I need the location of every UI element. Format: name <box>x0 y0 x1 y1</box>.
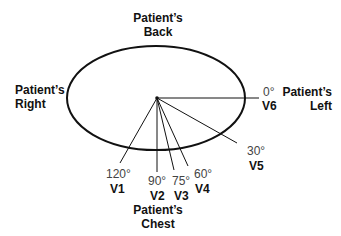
angle-v1: 120° <box>106 167 131 181</box>
angle-v3: 75° <box>172 174 190 188</box>
origin-point <box>155 96 159 100</box>
angle-v4: 60° <box>194 167 212 181</box>
lead-label-v5: V5 <box>249 159 264 173</box>
label-chest-line1: Patient’s <box>133 203 183 217</box>
label-chest-line2: Chest <box>133 217 183 231</box>
label-right-line2: Right <box>15 97 65 111</box>
label-right: Patient’s Right <box>15 83 65 111</box>
lead-ray-v1 <box>120 98 157 163</box>
angle-v5: 30° <box>247 144 265 158</box>
lead-label-v4: V4 <box>195 182 210 196</box>
lead-label-v2: V2 <box>150 189 165 203</box>
lead-ray-v4 <box>157 98 188 166</box>
label-chest: Patient’s Chest <box>133 203 183 231</box>
lead-ray-v3 <box>157 98 174 170</box>
label-back-line2: Back <box>133 25 183 39</box>
angle-v2: 90° <box>148 174 166 188</box>
label-left: Patient’s Left <box>280 85 332 113</box>
lead-label-v6: V6 <box>262 99 277 113</box>
label-left-line1: Patient’s <box>280 85 332 99</box>
label-right-line1: Patient’s <box>15 83 65 97</box>
lead-label-v3: V3 <box>174 189 189 203</box>
label-left-line2: Left <box>280 99 332 113</box>
label-back-line1: Patient’s <box>133 11 183 25</box>
lead-ray-v5 <box>157 98 237 143</box>
angle-v6: 0° <box>263 85 274 99</box>
label-back: Patient’s Back <box>133 11 183 39</box>
lead-label-v1: V1 <box>110 182 125 196</box>
